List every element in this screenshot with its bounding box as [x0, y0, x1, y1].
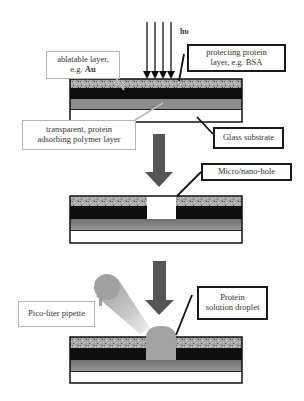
photon-energy-label: hυ	[180, 27, 189, 36]
connector-droplet	[176, 295, 192, 335]
label-protecting-protein-layer: protecting protein layer, e.g. BSA	[187, 44, 286, 72]
protein-patterning-diagram: hυ ablatable layer, e.g. Au protecting p…	[0, 0, 304, 401]
label-text: solution droplet	[206, 302, 260, 312]
glass-substrate-layer	[70, 372, 242, 383]
laser-arrows	[143, 22, 175, 79]
label-text: layer, e.g. BSA	[211, 57, 263, 67]
process-arrow-2	[145, 261, 174, 315]
label-text: ablatable layer,	[57, 54, 109, 64]
connector-hole	[177, 172, 201, 196]
polymer-layer	[70, 219, 242, 230]
micro-nano-hole	[147, 196, 176, 219]
layer-stack-initial	[70, 79, 242, 122]
label-glass-substrate: Glass substrate	[213, 127, 284, 149]
label-text: protecting protein	[206, 47, 267, 57]
layer-stack-ablated	[70, 196, 242, 243]
polymer-layer	[70, 360, 242, 371]
ablatable-layer	[70, 88, 242, 99]
protein-layer	[70, 79, 242, 88]
label-micro-nano-hole: Micro/nano-hole	[201, 163, 292, 181]
label-text: e.g.	[70, 64, 84, 74]
label-protein-solution-droplet: Protein solution droplet	[197, 286, 268, 320]
process-arrow-1	[145, 134, 173, 187]
label-text-bold: Au	[85, 64, 96, 74]
label-text: transparent, protein	[46, 124, 112, 134]
label-ablatable-layer: ablatable layer, e.g. Au	[46, 51, 120, 79]
label-text: adsorbing polymer layer	[37, 134, 120, 144]
label-transparent-polymer-layer: transparent, protein adsorbing polymer l…	[22, 120, 136, 150]
label-text: Protein	[220, 292, 245, 302]
glass-substrate-layer	[70, 231, 242, 243]
protein-droplet	[146, 326, 176, 360]
label-pico-liter-pipette: Pico-liter pipette	[18, 301, 95, 327]
pipette	[94, 274, 150, 334]
